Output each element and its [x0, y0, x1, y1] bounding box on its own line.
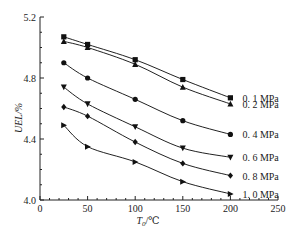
- circle-marker-icon: [133, 97, 138, 102]
- diamond-marker-icon: [61, 104, 66, 110]
- square-marker-icon: [180, 77, 185, 82]
- legend-label: 0. 6 MPa: [242, 152, 279, 163]
- x-axis-title-unit: /℃: [146, 215, 160, 226]
- triangle-up-marker-icon: [180, 84, 186, 90]
- legend-label: 1. 0 MPa: [242, 189, 279, 200]
- series-0-2-mpa: [61, 38, 234, 106]
- y-tick-label: 4.0: [24, 195, 37, 206]
- legend-label: 0. 4 MPa: [242, 129, 279, 140]
- series-line: [64, 63, 231, 135]
- x-tick-label: 250: [271, 203, 286, 214]
- circle-marker-icon: [180, 118, 185, 123]
- line-chart: 0501001502002504.04.44.85.2 0. 1 MPa0. 2…: [0, 0, 296, 234]
- legend-label: 0. 8 MPa: [242, 171, 279, 182]
- series-1-0-mpa: [61, 122, 233, 197]
- y-tick-label: 4.4: [24, 134, 37, 145]
- triangle-right-marker-icon: [85, 144, 91, 150]
- y-tick-label: 5.2: [24, 12, 37, 23]
- circle-marker-icon: [61, 60, 66, 65]
- triangle-down-marker-icon: [132, 124, 138, 130]
- diamond-marker-icon: [133, 139, 138, 145]
- diamond-marker-icon: [228, 172, 233, 178]
- triangle-down-marker-icon: [61, 85, 67, 91]
- legend-label: 0. 2 MPa: [242, 99, 279, 110]
- x-tick-label: 200: [223, 203, 238, 214]
- series-0-8-mpa: [61, 104, 233, 179]
- x-tick-label: 150: [175, 203, 190, 214]
- circle-marker-icon: [85, 75, 90, 80]
- triangle-down-marker-icon: [85, 101, 91, 107]
- square-marker-icon: [228, 95, 233, 100]
- y-tick-label: 4.8: [24, 73, 37, 84]
- x-tick-label: 50: [83, 203, 93, 214]
- x-tick-label: 100: [128, 203, 143, 214]
- diamond-marker-icon: [180, 160, 185, 166]
- circle-marker-icon: [228, 132, 233, 137]
- series-line: [64, 41, 231, 104]
- series-line: [64, 125, 231, 194]
- triangle-right-marker-icon: [180, 179, 186, 185]
- series-group: [61, 34, 234, 197]
- series-0-1-mpa: [61, 34, 233, 100]
- inline-legend: 0. 1 MPa0. 2 MPa0. 4 MPa0. 6 MPa0. 8 MPa…: [242, 93, 279, 200]
- triangle-down-marker-icon: [227, 155, 233, 161]
- x-axis-title: T0/℃: [136, 215, 159, 228]
- series-0-4-mpa: [61, 60, 233, 137]
- triangle-right-marker-icon: [133, 159, 139, 165]
- x-tick-label: 0: [38, 203, 43, 214]
- diamond-marker-icon: [85, 113, 90, 119]
- y-axis-title: UEL/%: [13, 103, 24, 133]
